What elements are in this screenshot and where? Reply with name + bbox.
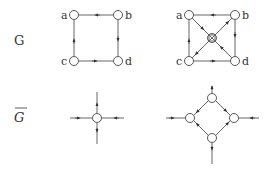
edge-x-b [215, 18, 232, 35]
node-c [185, 57, 194, 66]
row-label-gbar: G [14, 108, 27, 125]
arrow-a-x [200, 26, 203, 29]
edge-top-right [216, 101, 230, 115]
node-b [114, 11, 123, 20]
row-label-gbar-text: G [14, 110, 24, 125]
node-top [208, 94, 217, 103]
center-node-crossed [208, 34, 217, 43]
node-c [70, 57, 79, 66]
row-label-g: G [14, 33, 24, 48]
node-label-a: a [176, 9, 183, 22]
node-label-b: b [125, 9, 132, 22]
arrow-d-x [221, 47, 224, 50]
arrow-top-right [224, 109, 226, 111]
node-b [231, 11, 240, 20]
arrow-right-bottom [226, 123, 228, 125]
node-label-d: d [242, 55, 249, 68]
arrow-x-b [225, 22, 228, 25]
edge-left-top [194, 101, 208, 115]
edge-bottom-left [194, 121, 208, 135]
graph-gbar-left [70, 92, 124, 144]
arrow-bottom-left [197, 124, 199, 126]
node-center [93, 114, 102, 123]
node-right [230, 114, 239, 123]
node-d [114, 57, 123, 66]
arrow-x-c [196, 51, 199, 54]
node-a [185, 11, 194, 20]
node-label-c: c [61, 55, 67, 68]
edge-x-c [192, 41, 209, 58]
node-left [186, 114, 195, 123]
node-label-d: d [125, 55, 132, 68]
node-bottom [208, 134, 217, 143]
node-a [70, 11, 79, 20]
node-label-c: c [176, 55, 182, 68]
graph-diagram: G G a b c d [0, 0, 273, 170]
graph-g-left [70, 11, 123, 66]
arrow-left-top [197, 110, 199, 112]
node-label-a: a [61, 9, 68, 22]
node-d [231, 57, 240, 66]
graph-gbar-right [166, 86, 259, 164]
node-label-b: b [242, 9, 249, 22]
graph-g-right [185, 11, 240, 66]
